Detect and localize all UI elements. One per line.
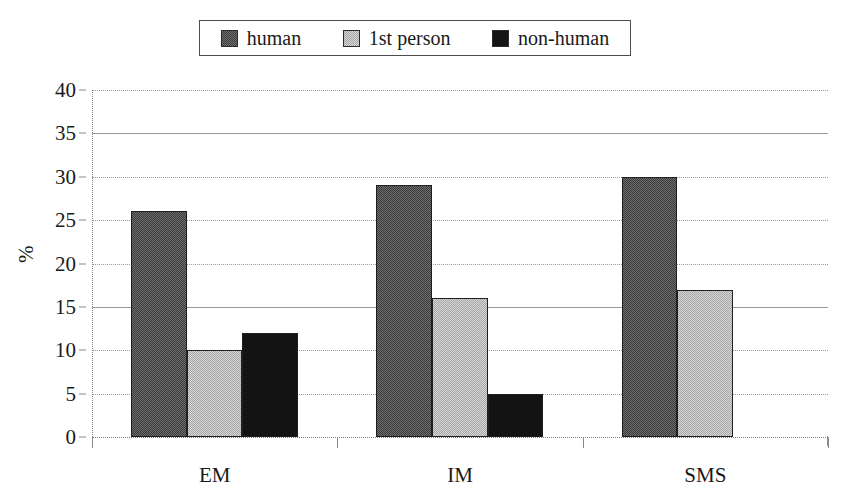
y-axis-tick-labels: 0510152025303540 — [0, 90, 86, 437]
y-axis-tick-label: 30 — [55, 164, 76, 189]
y-axis-tick-label: 15 — [55, 294, 76, 319]
y-axis-tick-label: 10 — [55, 338, 76, 363]
legend-swatch-icon-first-person — [343, 30, 360, 47]
legend-label-non-human: non-human — [518, 28, 609, 48]
x-axis-tick-label-em: EM — [199, 463, 231, 488]
y-axis-tick-label: 20 — [55, 251, 76, 276]
y-axis-tick-mark — [79, 176, 86, 177]
chart-legend: human 1st person non-human — [199, 20, 631, 56]
legend-swatch-icon-non-human — [492, 30, 509, 47]
x-axis: EMIMSMS — [92, 437, 828, 497]
x-axis-tick-mark — [583, 437, 584, 448]
x-axis-tick-label-im: IM — [447, 463, 473, 488]
y-axis-tick-mark — [79, 220, 86, 221]
legend-item-human: human — [221, 28, 301, 48]
y-axis-tick-label: 40 — [55, 78, 76, 103]
bar-series-group — [92, 90, 828, 437]
bar-em-human — [131, 211, 187, 437]
bar-sms-first-person — [677, 290, 733, 437]
plot-area — [92, 90, 828, 437]
legend-swatch-icon-human — [221, 30, 238, 47]
bar-im-non-human — [488, 394, 544, 437]
y-axis-tick-label: 0 — [66, 425, 77, 450]
x-axis-edge-tick-mark — [92, 437, 93, 448]
x-axis-edge-tick-mark — [828, 437, 829, 448]
bar-im-first-person — [432, 298, 488, 437]
legend-label-human: human — [247, 28, 301, 48]
y-axis-tick-mark — [79, 90, 86, 91]
bar-im-human — [376, 185, 432, 437]
y-axis-tick-mark — [79, 393, 86, 394]
legend-label-first-person: 1st person — [369, 28, 451, 48]
legend-item-first-person: 1st person — [343, 28, 451, 48]
x-axis-tick-mark — [337, 437, 338, 448]
bar-em-first-person — [187, 350, 243, 437]
y-axis-tick-mark — [79, 133, 86, 134]
y-axis-tick-label: 25 — [55, 208, 76, 233]
bar-em-non-human — [242, 333, 298, 437]
y-axis-tick-label: 35 — [55, 121, 76, 146]
bar-sms-human — [622, 177, 678, 437]
legend-item-non-human: non-human — [492, 28, 609, 48]
y-axis-tick-mark — [79, 437, 86, 438]
y-axis-tick-mark — [79, 306, 86, 307]
y-axis-tick-mark — [79, 263, 86, 264]
y-axis-tick-label: 5 — [66, 381, 77, 406]
y-axis-tick-mark — [79, 350, 86, 351]
x-axis-tick-label-sms: SMS — [684, 463, 726, 488]
